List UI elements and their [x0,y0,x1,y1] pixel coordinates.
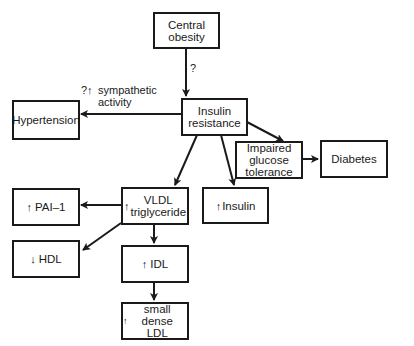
node-vldl-triglyceride: ↑ VLDLtriglyceride [121,187,189,225]
edge-resistance-insulin [221,135,234,185]
edge-resistance-vldl [175,135,197,185]
node-impaired-glucose-tolerance: Impairedglucosetolerance [235,141,303,179]
node-small-dense-ldl: ↑ small denseLDL [121,302,189,340]
edge-resistance-glucose [247,122,283,141]
up-arrow-icon: ↑ [124,200,130,212]
node-diabetes: Diabetes [320,140,388,178]
node-pai1: ↑PAI–1 [12,188,80,226]
node-insulin: ↑Insulin [202,187,269,224]
up-arrow-icon: ↑ [27,201,33,213]
node-central-obesity: Centralobesity [153,12,220,49]
up-arrow-icon: ↑ [216,200,222,212]
up-arrow-icon: ↑ [142,258,148,270]
node-idl: ↑IDL [121,245,189,283]
edge-label-question: ? [190,62,196,74]
node-insulin-resistance: Insulinresistance [181,98,248,136]
edge-label-sympathetic: sympathetic activity [98,84,157,108]
edge-vldl-hdl [83,223,121,250]
node-hypertension: Hypertension [12,100,80,140]
node-hdl: ↓HDL [12,240,80,278]
down-arrow-icon: ↓ [30,253,36,265]
edge-label-sympathetic-prefix: ?↑ [81,84,93,96]
